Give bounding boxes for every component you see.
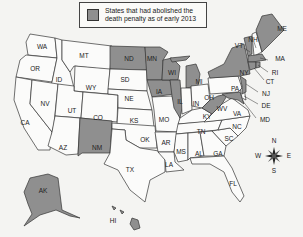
svg-text:RI: RI — [272, 69, 279, 76]
svg-text:VT: VT — [235, 42, 243, 49]
svg-text:NY: NY — [239, 69, 249, 76]
svg-text:AL: AL — [195, 150, 203, 157]
svg-text:MA: MA — [275, 55, 285, 62]
svg-text:TX: TX — [126, 166, 135, 173]
compass-e: E — [287, 152, 292, 159]
svg-text:TN: TN — [197, 128, 206, 135]
svg-text:SD: SD — [120, 76, 129, 83]
svg-text:KY: KY — [203, 113, 212, 120]
svg-text:AZ: AZ — [59, 144, 67, 151]
legend-label: States that had abolished the death pena… — [105, 7, 196, 23]
svg-text:PA: PA — [231, 85, 240, 92]
svg-text:ME: ME — [277, 25, 287, 32]
svg-text:MO: MO — [159, 116, 169, 123]
svg-text:CT: CT — [266, 78, 275, 85]
state-ME — [256, 14, 284, 52]
svg-text:NV: NV — [40, 100, 50, 107]
compass-w: W — [255, 152, 262, 159]
svg-text:UT: UT — [68, 107, 77, 114]
svg-text:AR: AR — [161, 139, 170, 146]
svg-text:AK: AK — [39, 187, 48, 194]
svg-text:GA: GA — [213, 150, 223, 157]
svg-text:MT: MT — [79, 52, 88, 59]
svg-text:NH: NH — [248, 36, 258, 43]
compass-rose-icon: N S E W — [255, 137, 292, 174]
svg-text:IL: IL — [177, 98, 183, 105]
svg-text:OK: OK — [140, 136, 150, 143]
compass-n: N — [272, 137, 277, 144]
svg-text:WA: WA — [37, 43, 48, 50]
svg-text:MN: MN — [147, 55, 157, 62]
svg-text:MS: MS — [176, 148, 186, 155]
svg-text:WI: WI — [168, 69, 176, 76]
svg-text:FL: FL — [229, 180, 237, 187]
svg-text:HI: HI — [110, 217, 117, 224]
state-MA — [248, 54, 266, 62]
legend-swatch-abolished — [87, 9, 99, 21]
svg-text:MI: MI — [195, 78, 202, 85]
svg-text:WY: WY — [86, 84, 97, 91]
svg-text:OR: OR — [30, 65, 40, 72]
svg-text:CA: CA — [20, 119, 30, 126]
svg-text:WV: WV — [217, 105, 228, 112]
svg-text:CO: CO — [93, 114, 103, 121]
svg-text:ID: ID — [56, 76, 63, 83]
svg-text:NJ: NJ — [262, 90, 270, 97]
svg-text:VA: VA — [233, 110, 242, 117]
state-AK — [24, 174, 80, 226]
svg-text:OH: OH — [204, 94, 214, 101]
svg-text:IA: IA — [156, 88, 163, 95]
svg-text:NE: NE — [124, 95, 134, 102]
svg-text:SC: SC — [224, 135, 233, 142]
svg-text:ND: ND — [124, 55, 134, 62]
svg-text:NM: NM — [92, 144, 102, 151]
svg-text:IN: IN — [193, 100, 200, 107]
svg-text:DE: DE — [261, 102, 271, 109]
svg-text:LA: LA — [165, 161, 174, 168]
us-map: WA OR CA ID NV MT WY UT AZ CO NM ND SD N… — [0, 0, 303, 237]
svg-text:MD: MD — [260, 116, 270, 123]
compass-s: S — [272, 167, 277, 174]
svg-text:NC: NC — [232, 123, 242, 130]
map-legend: States that had abolished the death pena… — [79, 2, 207, 28]
svg-text:KS: KS — [130, 117, 139, 124]
